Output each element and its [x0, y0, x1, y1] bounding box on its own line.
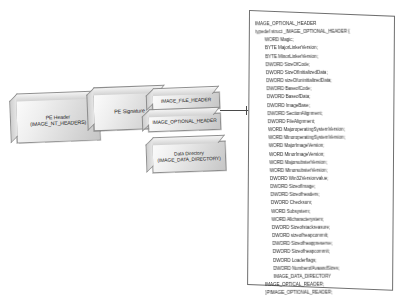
diagram-box-pe-signature-label: PE Signature [111, 107, 148, 115]
connector-tick-icon [246, 106, 247, 115]
connector-line-icon [220, 110, 249, 111]
diagram-box-data-directory-label: Data Directory (IMAGE_DATA_DIRECTORY) [154, 150, 224, 165]
code-line: }PIMAGE_OPTIONAL_READER; [265, 289, 400, 298]
diagram-box-pe-header-label: PE Header (IMAGE_NT_HEADERS) [27, 112, 90, 127]
diagram-box-data-directory[interactable]: Data Directory (IMAGE_DATA_DIRECTORY) [151, 141, 226, 174]
diagram-box-image-optional-header[interactable]: IMAGE_OPTIONAL_HEADER [148, 113, 222, 133]
diagram-box-image-file-header-label: IMAGE_FILE_HEADER [158, 97, 214, 105]
diagram-box-image-optional-header-label: IMAGE_OPTIONAL_HEADER [149, 118, 219, 127]
code-line-list: IMAGE_OPTIONAL_HEADERtypedef struct _IMA… [255, 20, 400, 298]
optional-header-code-panel: IMAGE_OPTIONAL_HEADERtypedef struct _IMA… [247, 10, 395, 291]
